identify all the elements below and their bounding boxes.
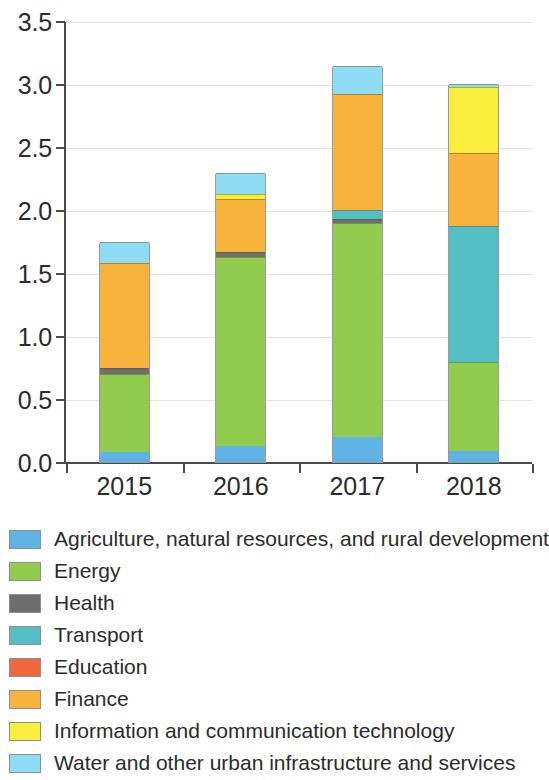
bar-segment (449, 451, 498, 462)
bar-segment (100, 374, 149, 452)
chart-legend: Agriculture, natural resources, and rura… (0, 523, 545, 779)
bar-segment (216, 446, 265, 462)
bar-segment (100, 452, 149, 462)
legend-label: Finance (54, 687, 129, 710)
x-tick-label: 2018 (414, 474, 534, 499)
bar-segment (449, 362, 498, 450)
bar-segment (333, 437, 382, 462)
legend-swatch-icon (9, 594, 41, 613)
x-tick-mark (532, 464, 534, 473)
bar-2018 (448, 85, 499, 463)
bar-segment (449, 153, 498, 226)
legend-label: Information and communication technology (54, 719, 454, 742)
legend-item[interactable]: Education (0, 651, 545, 683)
legend-swatch-icon (9, 530, 41, 549)
x-tick-mark (299, 464, 301, 473)
legend-item[interactable]: Finance (0, 683, 545, 715)
bar-segment (100, 263, 149, 368)
bar-segment (100, 368, 149, 374)
x-tick-label: 2015 (64, 474, 184, 499)
legend-item[interactable]: Agriculture, natural resources, and rura… (0, 523, 545, 555)
x-tick-label: 2016 (181, 474, 301, 499)
bar-segment (449, 84, 498, 87)
x-tick-label: 2017 (297, 474, 417, 499)
x-tick-mark (416, 464, 418, 473)
x-tick-mark (66, 464, 68, 473)
plot-area: 0.00.51.01.52.02.53.03.5 201520162017201… (0, 0, 545, 520)
legend-label: Health (54, 591, 115, 614)
bar-segment (333, 94, 382, 210)
legend-label: Transport (54, 623, 143, 646)
legend-swatch-icon (9, 626, 41, 645)
bar-segment (216, 257, 265, 446)
legend-item[interactable]: Health (0, 587, 545, 619)
bar-segment (333, 223, 382, 437)
bar-segment (216, 194, 265, 199)
bar-segment (216, 173, 265, 193)
bar-2016 (215, 174, 266, 463)
legend-label: Agriculture, natural resources, and rura… (54, 527, 549, 550)
legend-label: Education (54, 655, 147, 678)
legend-item[interactable]: Transport (0, 619, 545, 651)
bar-segment (216, 252, 265, 257)
bar-segment (333, 66, 382, 94)
legend-item[interactable]: Information and communication technology (0, 715, 545, 747)
legend-swatch-icon (9, 690, 41, 709)
legend-swatch-icon (9, 754, 41, 773)
legend-label: Energy (54, 559, 121, 582)
bar-2015 (99, 243, 150, 464)
legend-swatch-icon (9, 562, 41, 581)
legend-item[interactable]: Water and other urban infrastructure and… (0, 747, 545, 779)
bar-segment (216, 199, 265, 252)
bar-segment (100, 242, 149, 263)
bar-segment (333, 219, 382, 223)
legend-swatch-icon (9, 658, 41, 677)
legend-label: Water and other urban infrastructure and… (54, 751, 515, 774)
bar-segment (449, 226, 498, 362)
legend-swatch-icon (9, 722, 41, 741)
bar-2017 (332, 67, 383, 463)
legend-item[interactable]: Energy (0, 555, 545, 587)
x-tick-mark (183, 464, 185, 473)
bar-segment (333, 210, 382, 219)
bar-segment (449, 87, 498, 154)
bars-layer (0, 0, 545, 520)
